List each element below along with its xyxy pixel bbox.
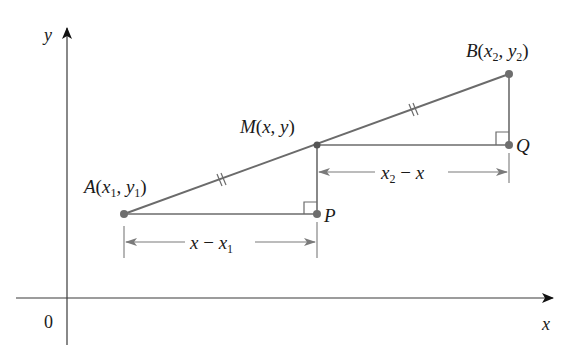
point-P — [313, 210, 321, 218]
point-Q — [505, 141, 513, 149]
label-Q: Q — [516, 135, 530, 156]
dimension-lower-label: x − x1 — [189, 232, 233, 256]
label-B: B(x2, y2) — [466, 40, 529, 64]
point-M — [314, 142, 321, 149]
label-P: P — [323, 205, 336, 226]
dimension-upper-label: x2 − x — [380, 162, 425, 186]
label-M: M(x, y) — [239, 116, 295, 138]
x-axis-label: x — [541, 314, 550, 334]
point-B — [505, 70, 513, 78]
y-axis-label: y — [42, 25, 52, 45]
midpoint-diagram: y x 0 A(x1, y1) B(x2, y2) M(x, y) P Q x … — [0, 0, 573, 354]
label-A: A(x1, y1) — [82, 176, 147, 200]
point-A — [120, 210, 128, 218]
origin-label: 0 — [44, 312, 53, 332]
